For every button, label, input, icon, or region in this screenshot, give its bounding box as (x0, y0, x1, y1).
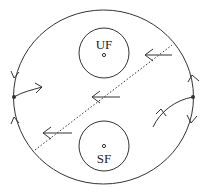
flow-arrow-bottom (43, 127, 72, 139)
right-boundary-arrowhead-bottom-icon (187, 115, 197, 123)
left-boundary-arrowhead-top-icon (11, 71, 19, 78)
right-fixed-point (191, 95, 195, 99)
flow-arrow-middle (92, 91, 120, 103)
right-incoming-trajectory (153, 97, 193, 127)
uf-label: UF (96, 37, 113, 52)
diagram-canvas: UF SF (0, 0, 207, 194)
phase-portrait-diagram: UF SF (0, 0, 207, 194)
left-fixed-point (12, 95, 16, 99)
sf-label: SF (97, 151, 111, 166)
right-boundary-arrowhead-top-icon (188, 75, 199, 82)
sf-fixed-point-dot (102, 144, 105, 147)
uf-fixed-point-dot (102, 53, 105, 56)
flow-arrow-top (145, 49, 172, 61)
left-outgoing-trajectory (14, 87, 42, 97)
